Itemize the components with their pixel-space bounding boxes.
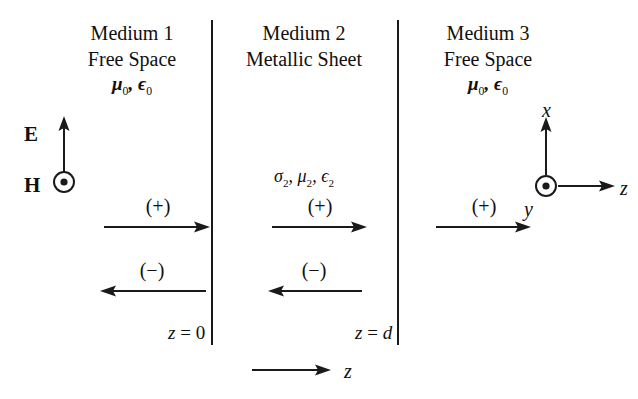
axis-label-z: z [620,178,628,198]
medium-1-wave-plus-label: (+) [102,196,214,216]
medium-1-title: Medium 1 [62,20,202,46]
boundary-label-z-equals-0: z = 0 [168,322,205,344]
axis-arrow-z-right-icon [556,178,618,194]
boundary-d-equals: = [367,322,378,343]
medium-1-epsilon-subscript: 0 [146,85,152,98]
axis-arrow-x-up-icon [536,117,556,177]
medium-2-parameters: σ2, μ2, ϵ2 [234,166,374,189]
medium-2-mu-symbol: μ [298,166,307,186]
boundary-label-z-equals-d: z = d [355,322,392,344]
medium-1-param-comma: , [128,73,138,94]
magnetic-field-label: H [24,175,40,196]
axis-label-y: y [524,199,533,219]
boundary-0-equals-wrap: = [175,322,195,343]
medium-1-wave-minus-label: (−) [96,260,208,280]
medium-2-epsilon-subscript: 2 [328,177,334,189]
medium-3-subtitle: Free Space [418,46,558,72]
medium-2-comma-2: , [312,166,321,186]
medium-3-heading: Medium 3 Free Space μ0, ϵ0 [418,20,558,99]
medium-3-param-comma: , [484,73,494,94]
medium-1-heading: Medium 1 Free Space μ0, ϵ0 [62,20,202,99]
medium-3-epsilon-subscript: 0 [502,85,508,98]
magnetic-field-circle-dot-icon [48,166,80,198]
medium-2-title: Medium 2 [234,20,374,46]
em-three-medium-diagram: Medium 1 Free Space μ0, ϵ0 Medium 2 Meta… [0,0,638,399]
medium-3-parameters: μ0, ϵ0 [418,72,558,99]
medium-1-mu-symbol: μ [112,73,123,94]
medium-2-wave-plus: (+) [270,196,370,235]
medium-2-wave-minus-label: (−) [264,260,364,280]
medium-1-arrow-right-icon [102,219,214,235]
boundary-d-equals-wrap: = [362,322,382,343]
medium-2-sigma-symbol: σ [274,166,283,186]
medium-1-wave-minus: (−) [96,260,208,299]
coordinate-axes: x y z [500,100,630,215]
medium-2-arrow-right-icon [270,219,370,235]
boundary-0-equals: = [180,322,191,343]
medium-1-wave-plus: (+) [102,196,214,235]
medium-3-mu-symbol: μ [468,73,479,94]
boundary-line-z-equals-0 [211,20,213,345]
medium-3-epsilon-symbol: ϵ [494,73,502,94]
medium-1-epsilon-symbol: ϵ [138,73,146,94]
propagation-axis-arrow-right-icon [250,362,334,378]
medium-1-arrow-left-icon [96,283,208,299]
medium-3-arrow-right-icon [434,219,534,235]
medium-1-subtitle: Free Space [62,46,202,72]
propagation-axis-label: z [344,361,352,381]
medium-2-subtitle: Metallic Sheet [234,46,374,72]
medium-2-arrow-left-icon [264,283,364,299]
medium-2-wave-plus-label: (+) [270,196,370,216]
medium-2-wave-minus: (−) [264,260,364,299]
medium-2-comma-1: , [289,166,298,186]
boundary-d-value: d [383,322,393,343]
medium-2-heading: Medium 2 Metallic Sheet [234,20,374,72]
electric-field-label: E [24,124,38,145]
medium-3-title: Medium 3 [418,20,558,46]
boundary-line-z-equals-d [397,20,399,345]
boundary-0-value: 0 [196,322,206,343]
medium-1-parameters: μ0, ϵ0 [62,72,202,99]
